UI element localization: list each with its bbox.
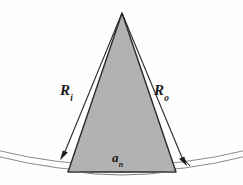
inner-radius-symbol: R xyxy=(60,82,70,98)
inner-radius-label: Ri xyxy=(60,83,73,101)
arc-width-label: an xyxy=(112,151,123,168)
inner-radius-subscript: i xyxy=(70,93,73,103)
arc-width-subscript: n xyxy=(119,160,123,169)
arc-width-symbol: a xyxy=(112,150,119,165)
outer-radius-subscript: o xyxy=(164,93,169,103)
outer-radius-label: Ro xyxy=(154,83,169,101)
outer-radius-symbol: R xyxy=(154,82,164,98)
figure-container: Ri Ro an xyxy=(0,0,243,185)
